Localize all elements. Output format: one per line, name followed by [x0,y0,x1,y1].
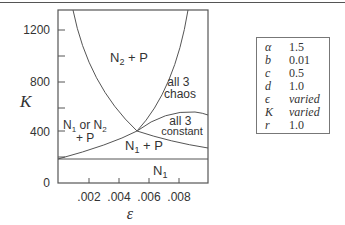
region-n2-p: N2 + P [110,50,148,67]
region-all3-chaos: all 3 chaos [164,75,196,101]
param-symbol: r [265,119,289,132]
y-tick-0: 0 [43,176,50,190]
region-n1-p: N1 + P [125,138,163,155]
x-tick-004: .004 [107,190,131,204]
parameter-table: α 1.5 b 0.01 c 0.5 d 1.0 ϵ varied K vari… [256,37,330,134]
y-tick-1200: 1200 [23,23,50,37]
x-tick-002: .002 [77,190,101,204]
region-n1-or-n2-p: N1 or N2 + P [63,118,110,145]
left-u-branch [73,10,137,131]
y-ticks [58,30,65,157]
x-tick-006: .006 [137,190,161,204]
region-n1: N1 [153,163,167,180]
param-row-r: r 1.0 [265,119,329,132]
y-axis-label: K [19,92,33,111]
param-value: 1.0 [289,119,304,132]
y-tick-800: 800 [30,75,50,89]
region-all3-constant: all 3 constant [161,114,203,137]
x-axis-label: ε [127,205,134,222]
y-tick-400: 400 [30,125,50,139]
x-tick-008: .008 [167,190,191,204]
